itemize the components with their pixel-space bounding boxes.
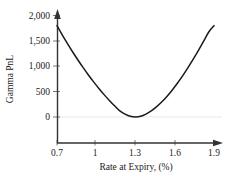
x-tick-label: 1.9 [208, 148, 220, 158]
x-tick-label: 1 [93, 148, 98, 158]
y-tick-label: 1,000 [29, 61, 51, 71]
x-tick-label: 1.6 [169, 148, 181, 158]
y-tick-label: 1,500 [29, 36, 51, 46]
y-axis-title: Gamma PnL [5, 55, 15, 103]
chart-canvas: 2,000 1,500 1,000 500 0 0.7 1 1.3 1.6 1.… [0, 0, 236, 179]
y-tick-label: 2,000 [29, 11, 51, 21]
x-tick-label: 0.7 [51, 148, 63, 158]
y-tick-label: 500 [36, 87, 51, 97]
x-tick-label: 1.3 [129, 148, 141, 158]
y-tick-label: 0 [45, 112, 50, 122]
gamma-pnl-chart: 2,000 1,500 1,000 500 0 0.7 1 1.3 1.6 1.… [0, 0, 236, 179]
x-axis-title: Rate at Expiry, (%) [99, 162, 172, 173]
